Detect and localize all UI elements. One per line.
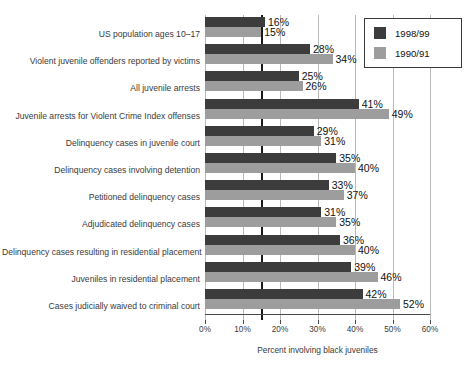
bar-value-label: 28% xyxy=(313,44,334,54)
x-axis-line xyxy=(205,314,430,315)
bar-value-label: 39% xyxy=(354,262,375,272)
bar-group: 39%46% xyxy=(205,262,430,282)
bar-1998-99-4 xyxy=(205,126,314,136)
bar-1990-91-7 xyxy=(205,217,336,227)
bar-1990-91-3 xyxy=(205,109,389,119)
tick-50 xyxy=(393,320,394,324)
tick-60 xyxy=(430,320,431,324)
tick-0 xyxy=(205,320,206,324)
bar-1998-99-6 xyxy=(205,180,329,190)
x-axis-ticks: 0%10%20%30%40%50%60% xyxy=(205,320,430,340)
category-label-6: Petitioned delinquency cases xyxy=(2,192,200,202)
bar-chart: US population ages 10–17Violent juvenile… xyxy=(0,0,474,378)
bar-1990-91-2 xyxy=(205,81,303,91)
bar-1990-91-4 xyxy=(205,136,321,146)
legend-label-1990-91: 1990/91 xyxy=(395,48,430,59)
category-label-2: All juvenile arrests xyxy=(2,83,200,93)
bar-1990-91-10 xyxy=(205,299,400,309)
bar-value-label: 31% xyxy=(324,136,345,146)
x-axis-title: Percent involving black juveniles xyxy=(205,345,430,355)
chart-legend: 1998/99 1990/91 xyxy=(364,18,462,68)
bar-group: 42%52% xyxy=(205,289,430,309)
tick-40 xyxy=(355,320,356,324)
bar-1990-91-6 xyxy=(205,190,344,200)
bar-group: 25%26% xyxy=(205,71,430,91)
bar-1998-99-10 xyxy=(205,289,363,299)
bar-value-label: 49% xyxy=(392,109,413,119)
bar-1998-99-8 xyxy=(205,235,340,245)
category-label-8: Delinquency cases resulting in residenti… xyxy=(2,247,200,257)
bar-value-label: 37% xyxy=(347,190,368,200)
bar-1990-91-1 xyxy=(205,54,333,64)
tick-label-0: 0% xyxy=(199,325,211,334)
legend-label-1998-99: 1998/99 xyxy=(395,28,430,39)
bar-value-label: 15% xyxy=(264,27,285,37)
category-label-9: Juveniles in residential placement xyxy=(2,274,200,284)
bar-group: 36%40% xyxy=(205,235,430,255)
bar-value-label: 40% xyxy=(358,245,379,255)
category-label-4: Delinquency cases in juvenile court xyxy=(2,138,200,148)
bar-value-label: 34% xyxy=(336,54,357,64)
tick-label-10: 10% xyxy=(234,325,250,334)
category-label-3: Juvenile arrests for Violent Crime Index… xyxy=(2,111,200,121)
bar-group: 35%40% xyxy=(205,153,430,173)
bar-group: 31%35% xyxy=(205,207,430,227)
tick-label-50: 50% xyxy=(384,325,400,334)
tick-label-60: 60% xyxy=(422,325,438,334)
bar-1998-99-1 xyxy=(205,44,310,54)
bar-group: 33%37% xyxy=(205,180,430,200)
bar-1990-91-8 xyxy=(205,245,355,255)
bar-1998-99-7 xyxy=(205,207,321,217)
legend-item-1990-91: 1990/91 xyxy=(374,47,430,59)
category-label-0: US population ages 10–17 xyxy=(2,29,200,39)
bar-1998-99-2 xyxy=(205,71,299,81)
bar-1998-99-3 xyxy=(205,99,359,109)
tick-20 xyxy=(280,320,281,324)
legend-swatch-1990-91 xyxy=(374,47,386,59)
bar-group: 29%31% xyxy=(205,126,430,146)
tick-label-20: 20% xyxy=(272,325,288,334)
bar-value-label: 42% xyxy=(366,289,387,299)
bar-1998-99-0 xyxy=(205,17,265,27)
category-label-5: Delinquency cases involving detention xyxy=(2,165,200,175)
bar-value-label: 41% xyxy=(362,99,383,109)
tick-10 xyxy=(243,320,244,324)
bar-value-label: 52% xyxy=(403,299,424,309)
tick-label-30: 30% xyxy=(309,325,325,334)
bar-1990-91-9 xyxy=(205,272,378,282)
category-label-10: Cases judicially waived to criminal cour… xyxy=(2,301,200,311)
bar-1990-91-5 xyxy=(205,163,355,173)
bar-1990-91-0 xyxy=(205,27,261,37)
bar-value-label: 35% xyxy=(339,217,360,227)
bar-value-label: 40% xyxy=(358,163,379,173)
bar-1998-99-9 xyxy=(205,262,351,272)
category-axis: US population ages 10–17Violent juvenile… xyxy=(0,15,200,320)
category-label-7: Adjudicated delinquency cases xyxy=(2,219,200,229)
legend-item-1998-99: 1998/99 xyxy=(374,27,430,39)
bar-value-label: 46% xyxy=(381,272,402,282)
legend-swatch-1998-99 xyxy=(374,27,386,39)
bar-1998-99-5 xyxy=(205,153,336,163)
bar-group: 41%49% xyxy=(205,99,430,119)
tick-label-40: 40% xyxy=(347,325,363,334)
bar-value-label: 26% xyxy=(306,81,327,91)
category-label-1: Violent juvenile offenders reported by v… xyxy=(2,56,200,66)
tick-30 xyxy=(318,320,319,324)
